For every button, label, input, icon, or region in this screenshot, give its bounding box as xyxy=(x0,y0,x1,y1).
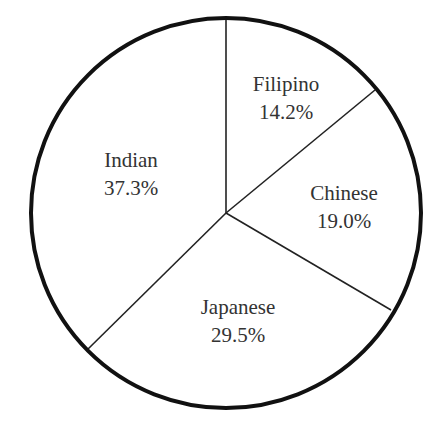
pie-chart: Filipino 14.2% Chinese 19.0% Japanese 29… xyxy=(0,0,429,425)
slice-label-percent: 14.2% xyxy=(259,100,313,124)
slice-label-percent: 19.0% xyxy=(317,209,371,233)
slice-label-name: Japanese xyxy=(201,295,276,319)
slice-chinese: Chinese 19.0% xyxy=(310,181,378,233)
slice-filipino: Filipino 14.2% xyxy=(253,72,320,124)
slice-label-percent: 37.3% xyxy=(104,176,158,200)
slice-indian: Indian 37.3% xyxy=(104,148,158,200)
slice-label-name: Chinese xyxy=(310,181,378,205)
slice-label-name: Indian xyxy=(104,148,158,172)
divider-japanese-indian xyxy=(87,213,226,350)
slice-label-name: Filipino xyxy=(253,72,320,96)
slice-label-percent: 29.5% xyxy=(211,323,265,347)
slice-japanese: Japanese 29.5% xyxy=(201,295,276,347)
